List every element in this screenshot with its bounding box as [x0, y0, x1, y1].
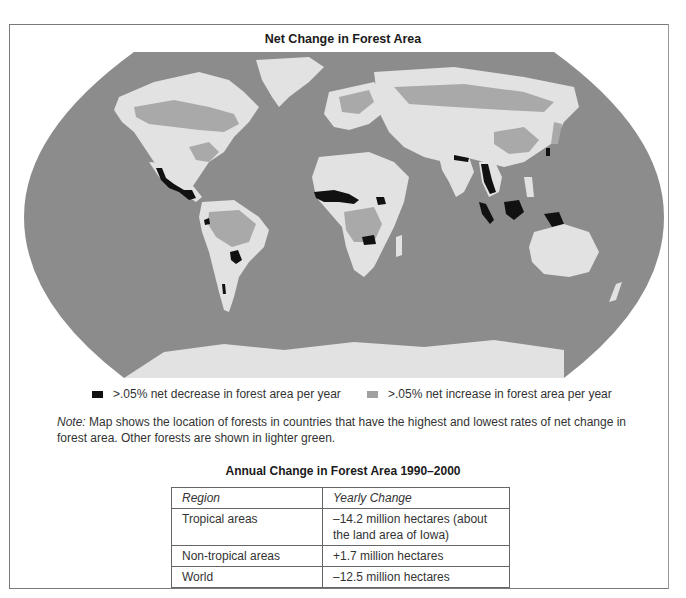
table-title: Annual Change in Forest Area 1990–2000	[0, 464, 686, 478]
legend-item-increase: >.05% net increase in forest area per ye…	[367, 387, 612, 401]
decrease-swatch-icon	[92, 391, 103, 398]
korea-decrease	[546, 148, 550, 156]
legend-item-decrease: >.05% net decrease in forest area per ye…	[92, 387, 341, 401]
table-header-row: Region Yearly Change	[172, 488, 510, 509]
increase-swatch-icon	[367, 391, 378, 398]
map-note: Note: Map shows the location of forests …	[57, 414, 657, 446]
australia	[529, 224, 599, 277]
world-map	[24, 52, 664, 378]
legend-label-decrease: >.05% net decrease in forest area per ye…	[113, 387, 341, 401]
cell-region: Non-tropical areas	[172, 546, 323, 567]
note-text: Map shows the location of forests in cou…	[57, 415, 626, 445]
cell-change: +1.7 million hectares	[323, 546, 510, 567]
table-row: Tropical areas –14.2 million hectares (a…	[172, 509, 510, 546]
legend-label-increase: >.05% net increase in forest area per ye…	[388, 387, 612, 401]
header-region: Region	[172, 488, 323, 509]
madagascar	[396, 235, 402, 257]
cell-change: –14.2 million hectares (about the land a…	[323, 509, 510, 546]
cell-change: –12.5 million hectares	[323, 567, 510, 588]
forest-change-table: Region Yearly Change Tropical areas –14.…	[171, 487, 510, 588]
table-row: Non-tropical areas +1.7 million hectares	[172, 546, 510, 567]
cell-region: World	[172, 567, 323, 588]
cell-region: Tropical areas	[172, 509, 323, 546]
table-row: World –12.5 million hectares	[172, 567, 510, 588]
map-title: Net Change in Forest Area	[0, 32, 686, 46]
note-prefix: Note:	[57, 415, 86, 429]
header-yearly-change: Yearly Change	[323, 488, 510, 509]
